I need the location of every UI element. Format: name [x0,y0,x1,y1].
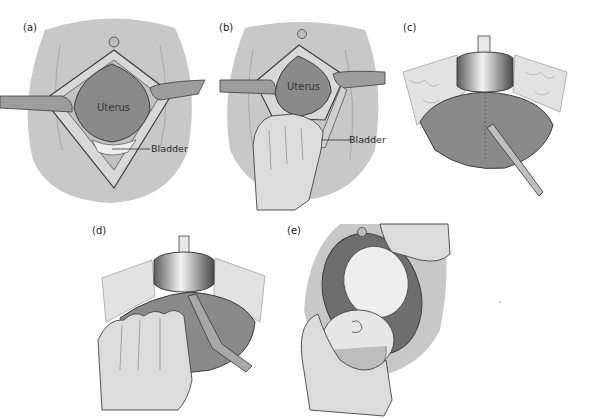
surgical-field-illustration-d [80,210,280,418]
surgical-field-illustration-b [205,0,405,210]
uterus-label-b: Uterus [287,82,320,92]
speck [499,301,501,303]
panel-b: (b) Uterus Bladder [205,0,405,210]
panel-d: (d) [80,210,280,418]
surgical-field-illustration-e [280,210,460,418]
uterus-label-a: Uterus [97,103,130,113]
bladder-callout-a: Bladder [151,144,188,154]
panel-a: (a) Uterus Bladder [0,0,210,210]
panel-e: (e) [280,210,460,418]
bladder-callout-b: Bladder [349,135,386,145]
panel-c: (c) [395,0,589,210]
surgical-field-illustration-c [395,0,589,210]
